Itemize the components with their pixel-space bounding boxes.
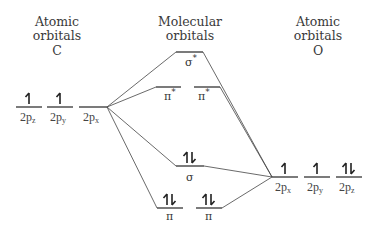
header-right: Atomic orbitals O bbox=[294, 14, 342, 58]
header-left-line2: orbitals bbox=[33, 28, 81, 43]
c-to-pi-line bbox=[107, 107, 157, 208]
mo-sigma-star: σ* bbox=[176, 52, 203, 69]
header-right-line1: Atomic bbox=[295, 14, 340, 29]
oxygen-2py: 2py bbox=[304, 163, 330, 195]
o-to-pi-star-line bbox=[220, 87, 272, 177]
o-to-sigma-line bbox=[204, 166, 272, 177]
pi-star-1-symbol: π bbox=[164, 90, 171, 103]
spin-up-arrow-icon bbox=[184, 152, 188, 163]
svg-text:2pz: 2pz bbox=[339, 180, 355, 195]
carbon-2px: 2px bbox=[79, 107, 107, 125]
oxygen-2px: 2px bbox=[272, 163, 298, 195]
oxygen-orbitals: 2px 2py 2pz bbox=[272, 163, 362, 195]
header-left-line3: C bbox=[52, 43, 62, 58]
pi-1-symbol: π bbox=[166, 210, 173, 223]
header-left-line1: Atomic bbox=[34, 14, 79, 29]
svg-text:σ*: σ* bbox=[185, 53, 198, 69]
svg-text:π*: π* bbox=[198, 87, 210, 103]
spin-down-arrow-icon bbox=[192, 152, 196, 163]
svg-text:2px: 2px bbox=[275, 180, 291, 195]
header-right-line2: orbitals bbox=[294, 28, 342, 43]
molecular-orbitals: σ* π* π* σ π π bbox=[156, 52, 222, 223]
header-center: Molecular orbitals bbox=[158, 14, 222, 43]
header-center-line2: orbitals bbox=[166, 28, 214, 43]
carbon-2px-sub: x bbox=[95, 116, 99, 125]
carbon-2pz: 2pz bbox=[16, 93, 42, 125]
header-right-line3: O bbox=[313, 43, 323, 58]
spin-up-arrow-icon bbox=[282, 163, 286, 174]
spin-up-arrow-icon bbox=[164, 194, 168, 205]
pi-star-2-symbol: π bbox=[198, 90, 205, 103]
oxygen-2pz-sub: z bbox=[351, 186, 355, 195]
c-to-sigma-line bbox=[107, 107, 176, 166]
pi-2-symbol: π bbox=[205, 210, 212, 223]
spin-down-arrow-icon bbox=[351, 163, 355, 174]
o-to-pi-line bbox=[222, 177, 272, 208]
oxygen-2px-sub: x bbox=[287, 186, 291, 195]
svg-text:2py: 2py bbox=[50, 110, 66, 125]
header-center-line1: Molecular bbox=[158, 14, 222, 29]
oxygen-2py-sub: y bbox=[319, 186, 323, 195]
mo-pi-star-2: π* bbox=[194, 87, 220, 103]
mo-pi-1: π bbox=[157, 194, 183, 223]
oxygen-2px-label: 2p bbox=[275, 180, 287, 194]
oxygen-2py-label: 2p bbox=[307, 180, 319, 194]
mo-pi-2: π bbox=[196, 194, 222, 223]
carbon-2py-label: 2p bbox=[50, 110, 62, 124]
pi-star-2-sup: * bbox=[205, 87, 210, 97]
oxygen-2pz: 2pz bbox=[336, 163, 362, 195]
svg-text:2pz: 2pz bbox=[20, 110, 36, 125]
spin-up-arrow-icon bbox=[57, 93, 61, 104]
svg-text:2px: 2px bbox=[83, 110, 99, 125]
svg-text:2py: 2py bbox=[307, 180, 323, 195]
spin-up-arrow-icon bbox=[26, 93, 30, 104]
sigma-star-sup: * bbox=[193, 53, 198, 63]
carbon-2px-label: 2p bbox=[83, 110, 95, 124]
mo-pi-star-1: π* bbox=[156, 87, 181, 103]
svg-text:π*: π* bbox=[164, 87, 176, 103]
spin-down-arrow-icon bbox=[211, 194, 215, 205]
pi-star-1-sup: * bbox=[171, 87, 176, 97]
header-left: Atomic orbitals C bbox=[33, 14, 81, 58]
o-to-sigma-star-line bbox=[203, 52, 272, 177]
c-to-pi-star-line bbox=[107, 87, 156, 107]
spin-down-arrow-icon bbox=[172, 194, 176, 205]
sigma-symbol: σ bbox=[186, 171, 194, 184]
carbon-2py: 2py bbox=[47, 93, 73, 125]
spin-up-arrow-icon bbox=[343, 163, 347, 174]
correlation-lines bbox=[107, 52, 272, 208]
mo-diagram: Atomic orbitals C Molecular orbitals Ato… bbox=[0, 0, 379, 225]
spin-up-arrow-icon bbox=[314, 163, 318, 174]
carbon-2pz-label: 2p bbox=[20, 110, 32, 124]
spin-up-arrow-icon bbox=[203, 194, 207, 205]
mo-sigma: σ bbox=[176, 152, 204, 184]
carbon-2py-sub: y bbox=[62, 116, 66, 125]
oxygen-2pz-label: 2p bbox=[339, 180, 351, 194]
carbon-2pz-sub: z bbox=[32, 116, 36, 125]
carbon-orbitals: 2pz 2py 2px bbox=[16, 93, 107, 125]
